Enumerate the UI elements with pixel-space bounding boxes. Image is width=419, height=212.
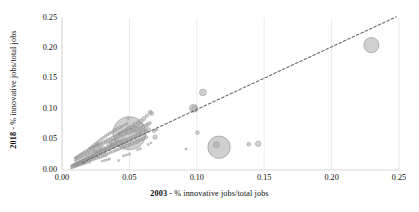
x-axis-title-year: 2003: [150, 189, 167, 198]
bubble-chart: 0.000.050.100.150.200.25 0.000.050.100.1…: [0, 0, 419, 212]
data-bubble: [118, 160, 120, 162]
data-bubble: [70, 168, 71, 169]
data-bubble: [74, 157, 76, 159]
data-bubble: [128, 153, 131, 156]
y-axis-title-wrapper: 2018 - % innovative jobs/total jobs: [0, 0, 18, 180]
data-bubble: [114, 138, 118, 142]
data-bubble: [199, 89, 206, 96]
data-bubble: [126, 123, 128, 125]
x-axis-title-rest: - % innovative jobs/total jobs: [167, 189, 269, 198]
data-bubble: [94, 149, 98, 153]
data-bubble: [145, 114, 148, 117]
data-bubble: [103, 159, 105, 161]
data-bubbles: [70, 37, 379, 168]
data-bubble: [135, 127, 139, 131]
data-bubble: [138, 139, 140, 141]
y-axis-title-rest: - % innovative jobs/total jobs: [9, 30, 18, 132]
data-bubble: [123, 124, 125, 126]
data-bubble: [101, 160, 103, 162]
data-bubble: [127, 118, 129, 120]
y-axis-title-year: 2018: [9, 132, 18, 149]
y-axis-title: 2018 - % innovative jobs/total jobs: [9, 5, 18, 175]
data-bubble: [255, 141, 261, 147]
data-bubble: [122, 155, 124, 157]
data-bubble: [74, 160, 76, 162]
data-bubble: [196, 131, 200, 135]
data-bubble: [185, 148, 187, 150]
data-bubble: [247, 142, 251, 146]
data-bubble: [106, 159, 108, 161]
data-bubble: [150, 142, 152, 144]
data-bubble: [98, 143, 100, 145]
data-bubble: [364, 37, 379, 52]
data-bubble: [121, 125, 123, 127]
data-bubble: [153, 135, 157, 139]
data-bubble: [88, 147, 90, 149]
data-bubble: [148, 122, 151, 125]
data-bubble: [136, 149, 138, 151]
data-bubble: [105, 153, 107, 155]
data-bubble: [108, 158, 110, 160]
data-bubble: [213, 142, 219, 148]
x-axis-title: 2003 - % innovative jobs/total jobs: [0, 189, 419, 198]
plot-area: [0, 0, 419, 212]
data-bubble: [125, 154, 127, 156]
data-bubble: [139, 148, 141, 150]
data-bubble: [71, 165, 73, 167]
data-bubble: [89, 162, 91, 164]
data-bubble: [147, 143, 149, 145]
data-bubble: [92, 146, 94, 148]
data-bubble: [208, 136, 230, 158]
data-bubble: [150, 111, 154, 115]
